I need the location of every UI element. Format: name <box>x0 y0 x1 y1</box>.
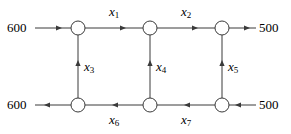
label-x7-sub: 7 <box>187 118 192 128</box>
label-x5-sub: 5 <box>234 65 239 75</box>
node-top-middle[interactable] <box>143 21 157 35</box>
arrowhead-up-icon <box>219 60 224 66</box>
edge-outflow-top-right <box>229 25 256 30</box>
label-x4-sub: 4 <box>162 65 167 75</box>
arrowhead-right-icon <box>192 25 198 30</box>
edge-inflow-bottom-right <box>229 102 256 107</box>
label-x5: x5 <box>228 60 238 75</box>
edge-x1 <box>85 25 143 30</box>
label-x3: x3 <box>84 60 94 75</box>
node-bottom-left[interactable] <box>71 98 85 112</box>
label-x2: x2 <box>181 5 191 20</box>
arrowhead-right-icon <box>56 25 62 30</box>
edge-x7 <box>157 102 215 107</box>
label-x1-sub: 1 <box>115 10 120 20</box>
label-x6: x6 <box>109 113 119 128</box>
edge-x6 <box>85 102 143 107</box>
supply-bottom-right: 500 <box>259 98 279 111</box>
node-top-right[interactable] <box>215 21 229 35</box>
arrowhead-left-icon <box>44 102 50 107</box>
edge-x3 <box>75 35 80 98</box>
arrowhead-left-icon <box>112 102 118 107</box>
arrowhead-right-icon <box>120 25 126 30</box>
label-x6-sub: 6 <box>115 118 120 128</box>
node-bottom-right[interactable] <box>215 98 229 112</box>
supply-top-right: 500 <box>259 21 279 34</box>
arrowhead-right-icon <box>244 25 250 30</box>
edge-x4 <box>147 35 152 98</box>
diagram-canvas <box>0 0 291 134</box>
arrowhead-up-icon <box>147 60 152 66</box>
network-flow-diagram: 600 500 600 500 x1 x2 x3 x4 x5 x6 x7 <box>0 0 291 134</box>
node-bottom-middle[interactable] <box>143 98 157 112</box>
label-x2-sub: 2 <box>187 10 192 20</box>
arrowhead-left-icon <box>184 102 190 107</box>
label-x3-sub: 3 <box>90 65 95 75</box>
label-x4: x4 <box>156 60 166 75</box>
node-top-left[interactable] <box>71 21 85 35</box>
supply-top-left: 600 <box>7 21 27 34</box>
edge-x5 <box>219 35 224 98</box>
arrowhead-left-icon <box>235 102 241 107</box>
edge-x2 <box>157 25 215 30</box>
label-x7: x7 <box>181 113 191 128</box>
supply-bottom-left: 600 <box>7 98 27 111</box>
arrowhead-up-icon <box>75 60 80 66</box>
label-x1: x1 <box>109 5 119 20</box>
edge-outflow-bottom-left <box>35 102 71 107</box>
edge-inflow-top-left <box>35 25 71 30</box>
